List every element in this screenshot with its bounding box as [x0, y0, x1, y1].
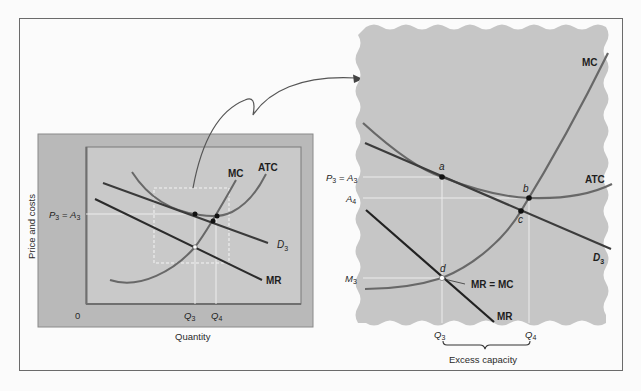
left-atc-label: ATC: [258, 162, 278, 173]
point-b-label: b: [523, 183, 529, 194]
left-point-a: [193, 212, 198, 217]
point-a: [439, 174, 445, 180]
excess-capacity-label: Excess capacity: [449, 354, 517, 365]
left-point-d: [193, 245, 197, 249]
left-point-c: [211, 219, 216, 224]
left-panel: MC ATC D3 MR P3 = A3 0 Q3 Q4 Quantity Pr…: [26, 134, 313, 342]
mr-eq-mc-label: MR = MC: [471, 279, 514, 290]
left-mc-label: MC: [228, 168, 244, 179]
left-origin-label: 0: [75, 310, 80, 321]
point-c-label: c: [518, 214, 523, 225]
left-y-axis-title: Price and costs: [26, 194, 37, 259]
monopolistic-competition-diagram: MC ATC D3 MR P3 = A3 0 Q3 Q4 Quantity Pr…: [0, 0, 641, 391]
point-a-label: a: [439, 161, 445, 172]
left-x-axis-title: Quantity: [175, 331, 211, 342]
right-p3-a3-label: P3 = A3: [326, 172, 357, 184]
left-point-b: [215, 214, 220, 219]
right-mc-label: MC: [582, 57, 598, 68]
point-d: [439, 275, 444, 280]
right-atc-label: ATC: [585, 174, 605, 185]
point-c: [518, 208, 524, 214]
point-b: [526, 195, 532, 201]
left-p3-a3-label: P3 = A3: [49, 209, 80, 221]
left-mr-label: MR: [266, 275, 282, 286]
point-d-label: d: [440, 263, 446, 274]
right-mr-label: MR: [497, 311, 513, 322]
right-panel: a b c d MC ATC D3 MR MR = MC: [356, 25, 613, 326]
